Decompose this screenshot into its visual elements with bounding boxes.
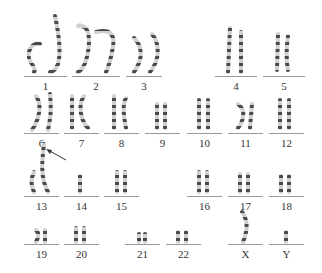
arrow-annotation — [46, 149, 66, 160]
chromosome-drawings — [0, 0, 322, 273]
